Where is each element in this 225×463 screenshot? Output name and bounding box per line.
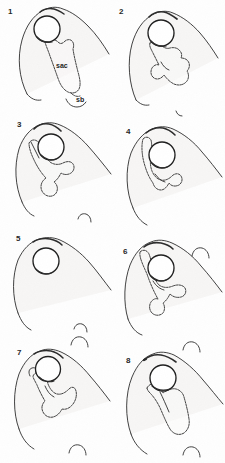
panel-8: 8 [113,336,225,463]
panel-3-number: 3 [17,121,21,129]
panel-1-drawing [0,0,113,116]
panel-4-outline [127,127,222,208]
panel-1-number: 1 [8,8,12,16]
panel-3: 3 [0,116,113,231]
panel-2-drawing [113,0,225,116]
panel-7-outline [15,349,111,429]
panel-2-ventral-edge [136,100,149,105]
panel-1: 1 sac sb [0,0,113,116]
label-sac: sac [56,62,68,69]
panel-3-drawing [0,116,113,231]
panel-8-stray-arc-top [183,342,200,352]
panel-8-ventral-edge [131,434,147,454]
panel-6: 6 [113,231,225,336]
panel-6-drawing [113,231,225,336]
panel-3-ventral-edge [22,202,34,216]
panel-7-number: 7 [17,349,21,357]
panel-3-stray-arc [78,214,91,222]
panel-2-number: 2 [119,8,123,16]
panel-8-number: 8 [126,357,130,365]
panel-1-ventral-edge [27,94,41,100]
panel-7-ventral-edge [19,429,34,449]
panel-5-number: 5 [16,235,20,243]
panel-4-ventral-edge [133,208,147,225]
panel-5: 5 [0,231,113,336]
label-sb: sb [76,96,84,103]
panel-8-stray-arc-bottom [183,447,200,457]
panel-2: 2 [113,0,225,116]
panel-4: 4 [113,116,225,231]
figure-plate: 1 sac sb 2 [0,0,225,463]
panel-5-drawing [0,231,113,336]
panel-6-ventral-edge [128,319,142,335]
panel-6-stray-arc [192,248,209,258]
panel-5-outline [14,238,112,313]
panel-7-stray-arc-top [71,337,88,347]
panel-8-dorsal-dot [144,359,146,360]
panel-5-ventral-edge [18,313,31,330]
panel-5-stray-arc [74,324,87,332]
panel-7: 7 [0,336,113,463]
panel-4-number: 4 [126,128,130,136]
panel-7-stray-arc-bottom [69,445,86,455]
panel-6-number: 6 [123,248,127,256]
